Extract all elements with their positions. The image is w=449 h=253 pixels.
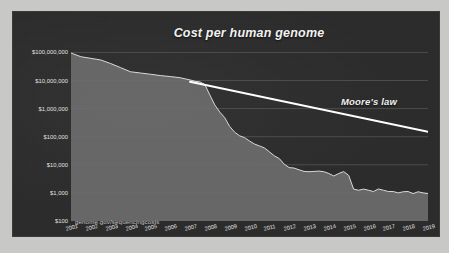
x-tick-label-2001: 2001: [65, 223, 79, 232]
chart-panel: Cost per human genome $100,000,000$10,00…: [12, 11, 440, 237]
y-tick-label-2: $1,000,000: [38, 106, 68, 112]
x-tick-label-2010: 2010: [244, 223, 258, 232]
x-tick-label-2015: 2015: [343, 223, 357, 232]
x-axis: 2001200220032004200520062007200820092010…: [71, 223, 428, 237]
y-axis: $100,000,000$10,000,000$1,000,000$100,00…: [13, 39, 68, 221]
x-tick-label-2005: 2005: [144, 223, 158, 232]
moores-law-annotation: Moore's law: [341, 96, 397, 107]
x-tick-label-2013: 2013: [303, 223, 317, 232]
x-tick-label-2008: 2008: [204, 223, 218, 232]
chart-svg: [71, 39, 428, 221]
x-tick-label-2004: 2004: [125, 223, 139, 232]
x-tick-label-2016: 2016: [363, 223, 377, 232]
x-tick-label-2003: 2003: [105, 223, 119, 232]
y-tick-label-0: $100,000,000: [32, 49, 68, 55]
x-tick-label-2014: 2014: [323, 223, 337, 232]
x-tick-label-2017: 2017: [382, 223, 396, 232]
y-tick-label-4: $10,000: [47, 162, 68, 168]
y-tick-label-5: $1,000: [50, 190, 68, 196]
x-tick-label-2019: 2019: [422, 223, 436, 232]
x-tick-label-2012: 2012: [283, 223, 297, 232]
page-title: Cost per human genome: [13, 26, 439, 40]
y-tick-label-6: $100: [55, 218, 68, 224]
x-tick-label-2018: 2018: [402, 223, 416, 232]
y-tick-label-3: $100,000: [43, 134, 68, 140]
x-tick-label-2007: 2007: [184, 223, 198, 232]
x-tick-label-2009: 2009: [224, 223, 238, 232]
y-tick-label-1: $10,000,000: [35, 78, 68, 84]
x-tick-label-2011: 2011: [263, 223, 276, 232]
page-background: Cost per human genome $100,000,000$10,00…: [0, 0, 449, 253]
x-tick-label-2006: 2006: [164, 223, 178, 232]
plot-area: [71, 39, 428, 221]
x-tick-label-2002: 2002: [85, 223, 99, 232]
